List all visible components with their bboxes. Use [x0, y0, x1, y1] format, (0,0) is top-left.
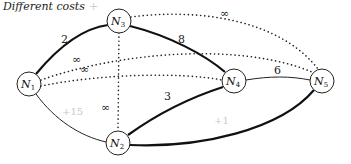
edge-n1-n4 — [41, 75, 222, 86]
cost-label-n3-n4: 8 — [178, 33, 185, 46]
cost-label-n3-n2: ∞ — [101, 101, 110, 114]
edge-n1-n3 — [36, 25, 108, 74]
cost-label-n4-n5: 6 — [274, 64, 281, 77]
cost-label-n2-n5: +1 — [214, 115, 229, 126]
node-n5: N5 — [310, 69, 334, 93]
edge-n1-n2 — [36, 94, 106, 142]
node-n4: N4 — [222, 69, 246, 93]
cost-label-n1-n3: 2 — [61, 33, 68, 46]
edge-n3-n5 — [131, 14, 318, 69]
edge-n3-n2 — [118, 33, 119, 131]
edge-n4-n5 — [246, 77, 310, 80]
node-n2: N2 — [106, 131, 130, 155]
cost-label-n1-n2: +15 — [62, 106, 83, 117]
graph-canvas: 2 8 6 3 +1 +15 ∞ ∞ ∞ ∞ N1 N2 N3 N4 N5 — [0, 0, 351, 164]
node-n3: N3 — [107, 9, 131, 33]
node-n1: N1 — [17, 72, 41, 96]
cost-label-n1-n4: ∞ — [80, 63, 89, 76]
cost-label-n3-n5: ∞ — [220, 7, 229, 20]
edge-n2-n4 — [128, 87, 223, 135]
cost-label-n2-n4: 3 — [164, 90, 171, 103]
